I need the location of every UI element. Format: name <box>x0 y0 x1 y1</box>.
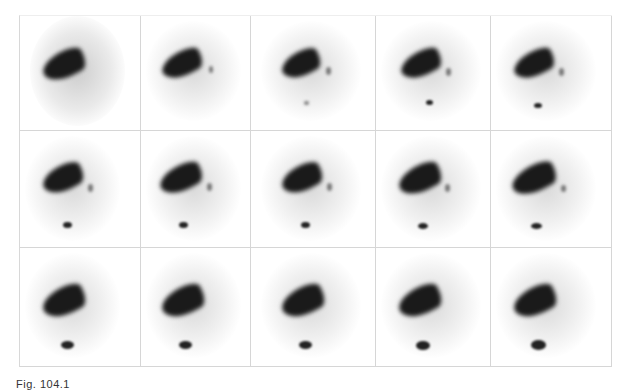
bowel-uptake <box>179 341 192 349</box>
scan-frame-r3c3 <box>251 248 376 367</box>
bowel-uptake <box>426 100 433 105</box>
bowel-uptake <box>416 341 430 350</box>
bowel-uptake <box>63 222 72 228</box>
scan-frame-r3c4 <box>376 248 491 367</box>
scan-frame-r1c3 <box>251 16 376 131</box>
bowel-uptake <box>61 341 74 349</box>
scan-frame-r2c3 <box>251 131 376 248</box>
bowel-uptake <box>299 341 312 349</box>
bowel-uptake <box>301 222 310 228</box>
scan-frame-r1c2 <box>141 16 251 131</box>
scan-frame-r3c1 <box>20 248 141 367</box>
bowel-uptake <box>531 223 542 229</box>
bowel-uptake <box>534 103 542 108</box>
bowel-uptake <box>531 340 546 350</box>
scan-frame-r1c1 <box>20 16 141 131</box>
scan-frame-r3c2 <box>141 248 251 367</box>
scan-frame-r2c5 <box>491 131 612 248</box>
scan-frame-r2c4 <box>376 131 491 248</box>
scan-frame-r1c4 <box>376 16 491 131</box>
scan-frame-grid <box>19 15 612 367</box>
bowel-uptake <box>418 223 428 229</box>
scan-frame-r3c5 <box>491 248 612 367</box>
scan-frame-r2c1 <box>20 131 141 248</box>
scan-frame-r1c5 <box>491 16 612 131</box>
figure-caption: Fig. 104.1 <box>16 378 70 390</box>
bowel-uptake <box>179 222 188 228</box>
scan-frame-r2c2 <box>141 131 251 248</box>
